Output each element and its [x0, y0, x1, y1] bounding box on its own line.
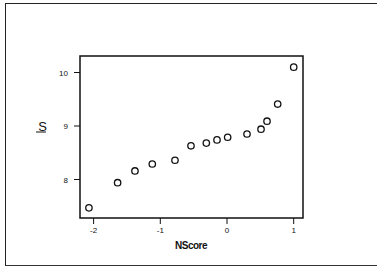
data-point — [214, 137, 220, 143]
data-point — [188, 143, 194, 149]
plot-area — [80, 56, 303, 218]
x-axis-label: NScore — [175, 240, 208, 251]
data-point — [224, 134, 230, 140]
data-point — [203, 140, 209, 146]
y-tick-label: 9 — [64, 122, 69, 131]
data-point — [114, 180, 120, 186]
y-axis: 8910 — [59, 69, 80, 185]
x-tick-label: -1 — [157, 226, 165, 235]
data-point — [149, 161, 155, 167]
y-tick-label: 10 — [59, 69, 68, 78]
data-point — [86, 205, 92, 211]
data-point — [172, 157, 178, 163]
x-tick-label: -2 — [90, 226, 98, 235]
y-tick-label: 8 — [64, 176, 69, 185]
data-point — [258, 126, 264, 132]
data-point — [132, 168, 138, 174]
data-point — [264, 118, 270, 124]
data-point — [291, 64, 297, 70]
x-axis: -2-101 — [90, 218, 296, 235]
data-point — [244, 131, 250, 137]
data-point — [274, 101, 280, 107]
data-points — [86, 64, 297, 211]
x-tick-label: 0 — [225, 226, 230, 235]
x-tick-label: 1 — [291, 226, 296, 235]
